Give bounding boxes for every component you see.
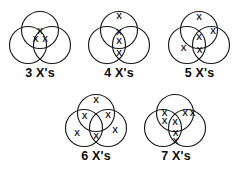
venn-svg-6: X X X X X X — [55, 85, 137, 149]
x-mark: X — [196, 12, 202, 22]
venn-figure-7: X X X X X X X 7 X's — [134, 85, 218, 163]
venn-svg-3: X X X — [0, 4, 80, 66]
figure-label-5: 5 X's — [158, 67, 241, 80]
x-marks-group: X X X X — [116, 11, 122, 58]
venn-figure-3: X X X 3 X's — [0, 4, 80, 80]
x-marks-group: X X X X X — [181, 12, 217, 55]
figure-label-7: 7 X's — [134, 150, 218, 163]
venn-svg-4: X X X X — [78, 0, 160, 66]
venn-svg-7: X X X X X X X — [134, 85, 218, 149]
x-mark: X — [116, 48, 122, 58]
x-mark: X — [197, 45, 203, 55]
x-marks-group: X X X X X X X — [162, 108, 196, 146]
x-marks-group: X X X X X X — [74, 95, 118, 141]
x-mark: X — [112, 125, 118, 135]
figure-label-4: 4 X's — [78, 67, 160, 80]
x-mark: X — [173, 136, 179, 146]
x-mark: X — [182, 108, 188, 118]
x-mark: X — [210, 26, 216, 36]
x-mark: X — [190, 108, 196, 118]
x-mark: X — [116, 11, 122, 21]
x-mark: X — [181, 43, 187, 53]
diagram-canvas: X X X 3 X's X X X X 4 X's — [0, 0, 241, 169]
venn-svg-5: X X X X X — [158, 0, 241, 66]
figure-label-6: 6 X's — [55, 150, 137, 163]
x-mark: X — [105, 110, 111, 120]
venn-figure-4: X X X X 4 X's — [78, 0, 160, 80]
x-mark: X — [172, 117, 178, 127]
x-mark: X — [93, 131, 99, 141]
x-mark: X — [196, 32, 202, 42]
x-mark: X — [33, 34, 39, 44]
venn-figure-6: X X X X X X 6 X's — [55, 85, 137, 163]
x-mark: X — [74, 128, 80, 138]
x-mark: X — [162, 116, 168, 126]
figure-label-3: 3 X's — [0, 67, 80, 80]
x-mark: X — [42, 34, 48, 44]
x-mark: X — [93, 95, 99, 105]
x-mark: X — [116, 36, 122, 46]
venn-figure-5: X X X X X 5 X's — [158, 0, 241, 80]
x-mark: X — [82, 111, 88, 121]
